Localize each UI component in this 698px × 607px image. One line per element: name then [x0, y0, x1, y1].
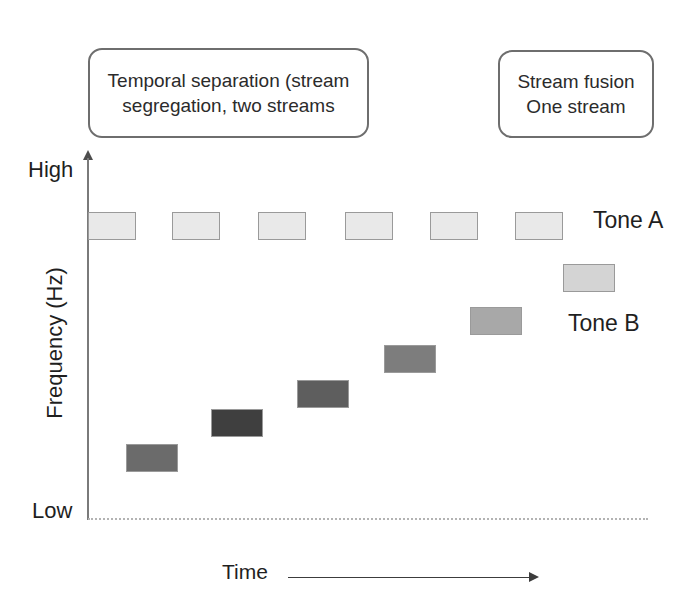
- bar-tone-b-5: [470, 307, 522, 335]
- y-axis-max-label: High: [28, 157, 73, 183]
- bar-tone-a-1: [88, 212, 136, 240]
- x-axis-line: [88, 518, 648, 520]
- bar-tone-b-6: [563, 264, 615, 292]
- bar-tone-b-1: [126, 444, 178, 472]
- bar-tone-b-3: [297, 380, 349, 408]
- callout-temporal-separation: Temporal separation (stream segregation,…: [88, 48, 369, 138]
- time-arrow-shaft-icon: [288, 577, 531, 578]
- bar-tone-a-2: [172, 212, 220, 240]
- y-axis-min-label: Low: [32, 498, 72, 524]
- callout-right-line-2: One stream: [517, 94, 634, 119]
- y-axis-title: Frequency (Hz): [42, 243, 68, 443]
- bar-tone-a-6: [515, 212, 563, 240]
- legend-label-tone-a: Tone A: [593, 207, 663, 234]
- x-axis-title: Time: [222, 560, 268, 584]
- bar-tone-a-3: [258, 212, 306, 240]
- callout-left-line-2: segregation, two streams: [108, 93, 350, 118]
- bar-tone-a-5: [430, 212, 478, 240]
- time-arrow-head-icon: [529, 572, 539, 582]
- callout-stream-fusion: Stream fusion One stream: [498, 50, 654, 138]
- bar-tone-b-4: [384, 345, 436, 373]
- callout-right-line-1: Stream fusion: [517, 69, 634, 94]
- bar-tone-a-4: [345, 212, 393, 240]
- callout-left-line-1: Temporal separation (stream: [108, 68, 350, 93]
- legend-label-tone-b: Tone B: [568, 310, 640, 337]
- bar-tone-b-2: [211, 409, 263, 437]
- figure-canvas: Temporal separation (stream segregation,…: [0, 0, 698, 607]
